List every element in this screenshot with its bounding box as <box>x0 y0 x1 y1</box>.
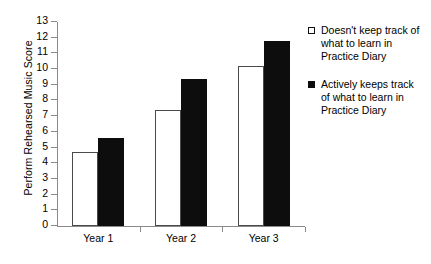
y-axis-tick: 7 <box>51 115 57 116</box>
plot-area: 012345678910111213 <box>57 22 305 227</box>
bar-open-year-3 <box>238 66 264 226</box>
y-axis-tick-label: 12 <box>36 30 48 43</box>
y-axis-tick: 3 <box>51 178 57 179</box>
y-axis-tick-label: 13 <box>36 14 48 27</box>
y-axis-tick-label: 11 <box>37 45 48 58</box>
bar-filled-year-2 <box>181 79 207 227</box>
y-axis-tick: 13 <box>51 21 57 22</box>
legend-item-label: Doesn't keep track of what to learn in P… <box>321 24 425 64</box>
y-axis-tick: 12 <box>51 37 57 38</box>
x-axis-category-label: Year 2 <box>141 232 221 244</box>
y-axis-tick-label: 7 <box>42 108 48 121</box>
y-axis-tick-label: 2 <box>42 187 48 200</box>
y-axis-tick-label: 9 <box>42 77 48 90</box>
bar-open-year-1 <box>72 152 98 226</box>
bar-filled-year-1 <box>98 138 124 226</box>
x-axis-category-label: Year 1 <box>58 232 138 244</box>
y-axis-tick: 9 <box>51 84 57 85</box>
y-axis-tick: 8 <box>51 99 57 100</box>
y-axis-tick-label: 8 <box>42 92 48 105</box>
legend-item: Doesn't keep track of what to learn in P… <box>308 24 428 64</box>
x-axis-line <box>57 226 305 227</box>
y-axis-tick: 11 <box>51 52 57 53</box>
filled-square-marker <box>308 81 315 88</box>
x-axis-tick <box>305 227 306 232</box>
y-axis-tick-label: 0 <box>42 218 48 231</box>
y-axis-tick-label: 3 <box>42 171 48 184</box>
y-axis-tick: 0 <box>51 225 57 226</box>
bar-filled-year-3 <box>264 41 290 226</box>
y-axis-line <box>57 22 58 227</box>
y-axis-tick: 1 <box>51 209 57 210</box>
y-axis-tick-label: 10 <box>36 61 48 74</box>
y-axis-title: Perform Rehearsed Music Score <box>22 18 34 218</box>
legend-item-label: Actively keeps track of what to learn in… <box>321 78 425 118</box>
y-axis-tick-label: 6 <box>42 124 48 137</box>
y-axis-tick: 2 <box>51 194 57 195</box>
bar-open-year-2 <box>155 110 181 226</box>
y-axis-tick: 5 <box>51 147 57 148</box>
open-square-marker <box>308 27 315 34</box>
chart-figure: Perform Rehearsed Music Score 0123456789… <box>0 0 431 264</box>
y-axis-tick: 4 <box>51 162 57 163</box>
x-axis-category-label: Year 3 <box>224 232 304 244</box>
legend-item: Actively keeps track of what to learn in… <box>308 78 428 118</box>
y-axis-tick: 6 <box>51 131 57 132</box>
y-axis-tick: 10 <box>51 68 57 69</box>
y-axis-tick-label: 1 <box>42 202 48 215</box>
chart-legend: Doesn't keep track of what to learn in P… <box>308 24 428 131</box>
y-axis-tick-label: 5 <box>42 140 48 153</box>
y-axis-tick-label: 4 <box>42 155 48 168</box>
